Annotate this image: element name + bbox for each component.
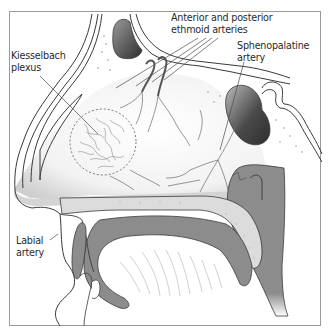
label-labial-line1: Labial [16, 235, 44, 247]
label-kiesselbach-line2: plexus [11, 62, 66, 74]
label-sphenopalatine-artery: Sphenopalatine artery [237, 40, 309, 64]
label-sphenopalatine-line2: artery [237, 52, 309, 64]
label-kiesselbach-plexus: Kiesselbach plexus [11, 50, 66, 74]
label-labial-line2: artery [16, 247, 44, 259]
label-ethmoid-line1: Anterior and posterior [171, 12, 273, 24]
label-ethmoid-line2: ethmoid arteries [171, 24, 273, 36]
label-sphenopalatine-line1: Sphenopalatine [237, 40, 309, 52]
soft-palate-tongue-band [84, 216, 252, 308]
label-labial-artery: Labial artery [16, 235, 44, 259]
frontal-sinus [113, 19, 142, 58]
label-ethmoid-arteries: Anterior and posterior ethmoid arteries [171, 12, 273, 36]
tongue-muscle-striations [120, 250, 222, 296]
sphenoid-bone-outline [262, 82, 322, 154]
label-kiesselbach-line1: Kiesselbach [11, 50, 66, 62]
